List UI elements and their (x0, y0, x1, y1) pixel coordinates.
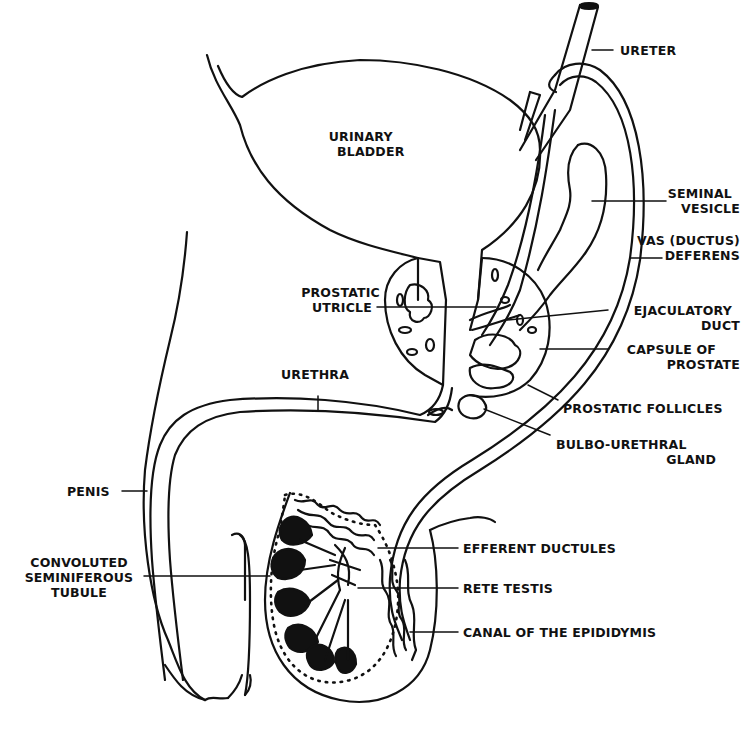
label-line: PROSTATIC (288, 285, 380, 300)
label-line: BULBO-URETHRAL (556, 437, 686, 452)
label-line: URINARY (317, 129, 404, 144)
label-line: DUCT (610, 318, 740, 333)
anatomy-diagram: URETER URINARY BLADDER SEMINAL VESICLE V… (0, 0, 752, 731)
label-line: PROSTATIC FOLLICLES (563, 401, 723, 416)
label-canal-of-epididymis: CANAL OF THE EPIDIDYMIS (463, 625, 656, 640)
label-bulbo-urethral-gland: BULBO-URETHRAL GLAND (556, 437, 716, 467)
label-line: GLAND (556, 452, 716, 467)
label-penis: PENIS (67, 484, 110, 499)
testis-shape (265, 493, 495, 702)
label-prostatic-follicles: PROSTATIC FOLLICLES (563, 401, 723, 416)
label-line: EJACULATORY (610, 303, 732, 318)
label-line: BLADDER (337, 144, 404, 159)
label-urinary-bladder: URINARY BLADDER (337, 129, 404, 159)
label-line: VESICLE (652, 201, 740, 216)
label-line: CONVOLUTED (18, 555, 140, 570)
label-rete-testis: RETE TESTIS (463, 581, 553, 596)
label-seminal-vesicle: SEMINAL VESICLE (652, 186, 740, 216)
label-prostatic-utricle: PROSTATIC UTRICLE (288, 285, 380, 315)
label-line: VAS (DUCTUS) (622, 233, 740, 248)
label-line: EFFERENT DUCTULES (463, 541, 616, 556)
label-vas-deferens: VAS (DUCTUS) DEFERENS (622, 233, 740, 263)
label-line: PROSTATE (608, 357, 740, 372)
label-line: TUBULE (18, 585, 140, 600)
label-line: UTRICLE (288, 300, 372, 315)
label-line: PENIS (67, 484, 110, 499)
label-efferent-ductules: EFFERENT DUCTULES (463, 541, 616, 556)
label-line: DEFERENS (622, 248, 740, 263)
label-ureter: URETER (620, 43, 676, 58)
label-line: URETER (620, 43, 676, 58)
label-line: RETE TESTIS (463, 581, 553, 596)
label-capsule-of-prostate: CAPSULE OF PROSTATE (608, 342, 740, 372)
label-line: URETHRA (281, 367, 349, 382)
label-urethra: URETHRA (281, 367, 349, 382)
ureter-shape (520, 3, 598, 160)
label-line: CANAL OF THE EPIDIDYMIS (463, 625, 656, 640)
label-line: CAPSULE OF (608, 342, 716, 357)
label-line: SEMINAL (652, 186, 732, 201)
label-line: SEMINIFEROUS (18, 570, 140, 585)
label-ejaculatory-duct: EJACULATORY DUCT (610, 303, 740, 333)
prostate-shape (385, 258, 550, 397)
urinary-bladder-shape (207, 55, 540, 300)
label-convoluted-seminiferous-tubule: CONVOLUTED SEMINIFEROUS TUBULE (18, 555, 140, 600)
